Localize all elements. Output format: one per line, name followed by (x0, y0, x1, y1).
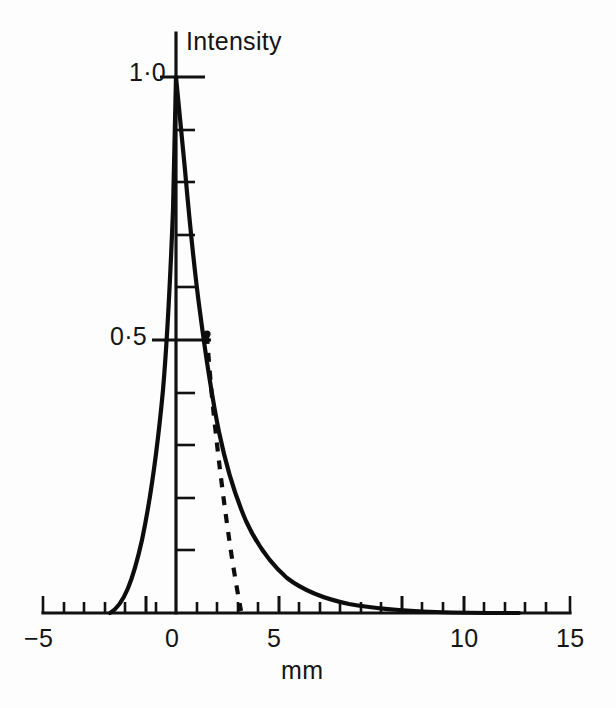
x-tick-label-0: 0 (165, 624, 179, 653)
x-tick-label-minus5: −5 (24, 624, 53, 653)
dashed-intensity-curve (207, 335, 241, 611)
branch-point-marker (203, 330, 210, 337)
y-axis-title: Intensity (186, 27, 282, 56)
x-tick-label-5: 5 (267, 624, 281, 653)
chart-figure: Intensity mm 1·0 0·5 −5 0 5 10 15 (0, 0, 616, 708)
x-axis-title: mm (281, 656, 323, 685)
solid-intensity-curve (110, 77, 519, 613)
plot-canvas (0, 0, 616, 708)
y-tick-label-1-0: 1·0 (129, 58, 166, 87)
y-tick-label-0-5: 0·5 (110, 322, 147, 351)
x-tick-label-15: 15 (556, 624, 584, 653)
x-tick-label-10: 10 (450, 624, 478, 653)
